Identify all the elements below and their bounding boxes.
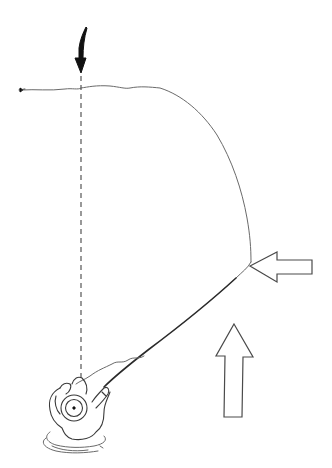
fly-line bbox=[22, 86, 251, 262]
curved-down-arrow-icon bbox=[75, 27, 87, 73]
angler-figure bbox=[49, 377, 110, 439]
cast-diagram bbox=[0, 0, 332, 468]
fly-line-lower bbox=[236, 262, 251, 278]
up-arrow-icon bbox=[216, 324, 253, 417]
fishing-rod bbox=[104, 278, 236, 387]
water-ripples bbox=[43, 432, 105, 453]
left-arrow-icon bbox=[250, 252, 312, 282]
diagram-canvas bbox=[0, 0, 332, 468]
